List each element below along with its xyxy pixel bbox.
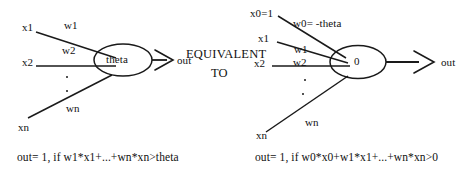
left-formula: out= 1, if w1*x1+...+wn*xn>theta: [17, 152, 179, 164]
left-weight-label-w1: w1: [64, 20, 78, 31]
left-weight-label-wn: wn: [66, 103, 80, 114]
right-input-label-x0: x0=1: [250, 8, 273, 19]
left-input-label-x2: x2: [22, 57, 33, 68]
left-input-line-x1: [36, 32, 116, 58]
right-weight-label-wn: wn: [305, 117, 319, 128]
equivalence-label-line2: TO: [211, 67, 228, 80]
right-ellipsis-dot-1: [304, 79, 306, 81]
left-weight-label-w2-text: w2: [62, 45, 76, 56]
right-neuron-label: 0: [354, 56, 360, 67]
right-input-label-x1: x1: [258, 33, 269, 44]
right-input-label-x2: x2: [254, 58, 265, 69]
right-weight-label-w2: w2: [293, 57, 307, 68]
left-ellipsis-dot-2: [66, 90, 68, 92]
right-formula: out= 1, if w0*x0+w1*x1+...+wn*xn>0: [255, 152, 438, 164]
left-neuron-label: theta: [106, 54, 128, 65]
right-output-label: out: [441, 57, 455, 68]
right-ellipsis-dot-2: [302, 93, 304, 95]
right-input-label-xn: xn: [256, 130, 267, 141]
left-ellipsis-dot-1: [66, 76, 68, 78]
left-input-label-xn: xn: [18, 122, 29, 133]
right-weight-label-w1: w1: [294, 44, 308, 55]
perceptron-equivalence-figure: x1 w1 x2 w2 wn xn theta out out= 1, if w…: [0, 0, 459, 180]
left-input-label-x1: x1: [22, 22, 33, 33]
right-weight-label-w0: w0= -theta: [293, 18, 341, 29]
